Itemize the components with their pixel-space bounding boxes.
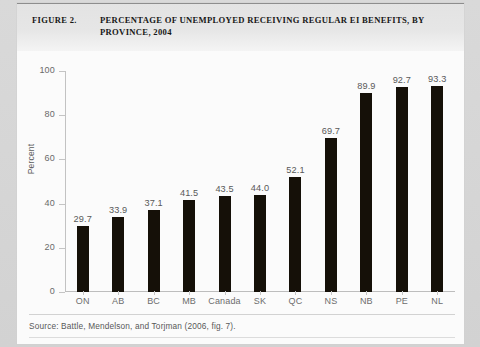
bar-value-label: 41.5 — [180, 188, 198, 198]
bar — [77, 226, 89, 292]
bar-value-label: 93.3 — [428, 74, 446, 84]
x-axis-category-label: NL — [431, 296, 443, 306]
x-axis-tick — [366, 291, 367, 295]
y-axis-tick-label: 40 — [13, 198, 55, 208]
bar — [183, 200, 195, 292]
bars-layer: 29.733.937.141.543.544.052.169.789.992.7… — [65, 71, 455, 292]
x-axis-category-label: AB — [112, 296, 124, 306]
footer-divider-top — [29, 314, 455, 315]
x-axis-category-label: SK — [254, 296, 266, 306]
bar-group: 37.1 — [148, 71, 160, 292]
scanned-page: FIGURE 2. PERCENTAGE OF UNEMPLOYED RECEI… — [0, 0, 480, 347]
figure-sheet: FIGURE 2. PERCENTAGE OF UNEMPLOYED RECEI… — [17, 3, 464, 344]
bar-value-label: 92.7 — [393, 75, 411, 85]
bar-group: 92.7 — [396, 71, 408, 292]
bar — [148, 210, 160, 292]
bar-group: 41.5 — [183, 71, 195, 292]
bar-value-label: 37.1 — [144, 198, 162, 208]
x-axis-tick — [331, 291, 332, 295]
y-axis-tick-label: 100 — [13, 65, 55, 75]
figure-title-text: PERCENTAGE OF UNEMPLOYED RECEIVING REGUL… — [100, 15, 455, 38]
bar-value-label: 52.1 — [286, 165, 304, 175]
bar-group: 29.7 — [77, 71, 89, 292]
x-axis-category-label: BC — [147, 296, 160, 306]
source-note: Source: Battle, Mendelson, and Torjman (… — [29, 321, 236, 331]
x-axis-category-label: NB — [360, 296, 373, 306]
bar — [431, 86, 443, 292]
x-axis-category-label: PE — [396, 296, 408, 306]
x-axis-category-label: QC — [289, 296, 303, 306]
x-axis-category-label: ON — [76, 296, 90, 306]
bar-value-label: 69.7 — [322, 126, 340, 136]
bar-value-label: 33.9 — [109, 205, 127, 215]
bar — [325, 138, 337, 292]
x-axis-tick — [154, 291, 155, 295]
bar — [289, 177, 301, 292]
bar-group: 52.1 — [289, 71, 301, 292]
bar-group: 89.9 — [360, 71, 372, 292]
y-axis-tick-label: 60 — [13, 153, 55, 163]
y-axis-tick-label: 20 — [13, 242, 55, 252]
y-axis-tick — [59, 292, 65, 293]
x-axis-tick — [402, 291, 403, 295]
bar-value-label: 43.5 — [215, 184, 233, 194]
x-axis-category-label: Canada — [208, 296, 240, 306]
bar-group: 69.7 — [325, 71, 337, 292]
x-axis-tick — [437, 291, 438, 295]
chart-plot-area: Percent 020406080100 29.733.937.141.543.… — [17, 50, 464, 305]
x-axis-tick — [260, 291, 261, 295]
bar-group: 44.0 — [254, 71, 266, 292]
figure-number-label: FIGURE 2. — [32, 15, 77, 25]
bar — [396, 87, 408, 292]
bar-group: 33.9 — [112, 71, 124, 292]
x-axis-tick — [118, 291, 119, 295]
footer-divider-bottom — [29, 337, 455, 338]
x-axis-tick — [189, 291, 190, 295]
bar — [254, 195, 266, 292]
bar-value-label: 44.0 — [251, 183, 269, 193]
bar — [360, 93, 372, 292]
bar — [112, 217, 124, 292]
bar-group: 93.3 — [431, 71, 443, 292]
bar-group: 43.5 — [219, 71, 231, 292]
y-axis-tick-label: 0 — [13, 286, 55, 296]
x-axis-category-label: NS — [325, 296, 338, 306]
x-axis-category-label: MB — [182, 296, 196, 306]
x-axis-tick — [83, 291, 84, 295]
y-axis-tick-label: 80 — [13, 109, 55, 119]
figure-title-band: FIGURE 2. PERCENTAGE OF UNEMPLOYED RECEI… — [17, 3, 464, 51]
x-axis-tick — [295, 291, 296, 295]
bar-value-label: 89.9 — [357, 81, 375, 91]
bar — [219, 196, 231, 292]
bar-value-label: 29.7 — [74, 214, 92, 224]
x-axis-tick — [225, 291, 226, 295]
